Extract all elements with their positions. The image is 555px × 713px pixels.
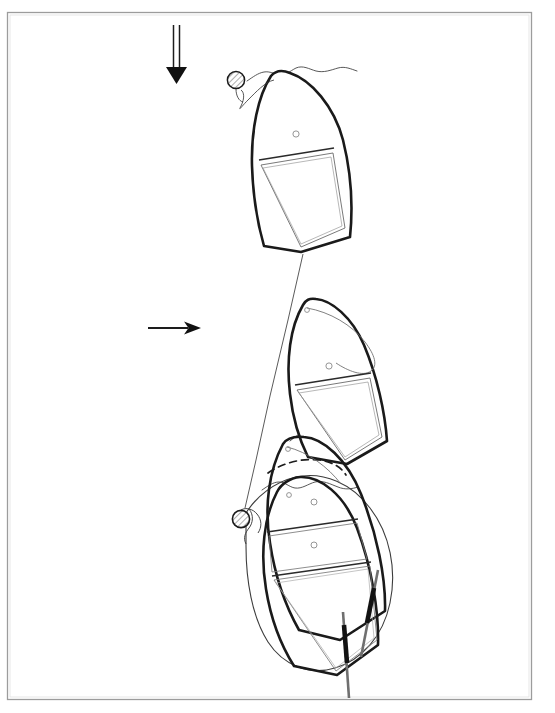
down-arrow	[166, 25, 187, 84]
right-arrow	[148, 322, 201, 335]
boat-position-1	[240, 71, 351, 252]
figure-illustration	[0, 0, 555, 713]
mooring-buoy-lower	[232, 509, 260, 533]
mooring-buoy-upper	[227, 71, 244, 102]
figure-page: Boat shown in three successive positions…	[0, 0, 555, 713]
